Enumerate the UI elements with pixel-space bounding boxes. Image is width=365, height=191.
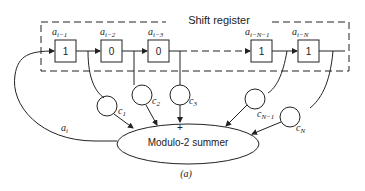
svg-text:1: 1 [306,46,312,57]
shift-register-title: Shift register [188,14,250,26]
svg-text:1: 1 [259,46,265,57]
tap-coefficient-c3 [170,85,190,105]
tap-lines [88,51,333,108]
register-cell-0: 1 [55,40,76,62]
svg-text:1: 1 [63,46,69,57]
feedback-label: ai [61,122,68,135]
cell-label-4: ai−N [292,26,309,39]
tap-coefficient-cN-1 [245,89,265,109]
summer-plus-sign: + [177,122,183,133]
summer-label: Modulo-2 summer [148,137,229,148]
shift-register-boundary [41,22,349,71]
tap-label-c1: c1 [118,105,126,118]
register-cell-1: 0 [101,40,122,62]
tap-coefficient-c2 [132,85,152,105]
register-cell-2: 0 [148,40,169,62]
register-cell-4: 1 [298,40,319,62]
tap-coefficient-c1 [97,96,117,116]
lfsr-diagram: Shift register ai−1 ai−2 ai−3 ai−N−1 ai−… [0,0,365,191]
svg-text:0: 0 [156,46,162,57]
cell-label-1: ai−2 [100,26,116,39]
cell-label-0: ai−1 [52,26,67,39]
figure-caption: (a) [180,168,192,180]
svg-text:0: 0 [109,46,115,57]
tap-label-cN: cN [296,122,305,135]
tap-label-cN-1: cN−1 [257,108,274,121]
tap-label-c2: c2 [152,95,160,108]
cell-label-2: ai−3 [148,26,164,39]
register-cell-3: 1 [251,40,272,62]
tap-label-c3: c3 [189,95,197,108]
